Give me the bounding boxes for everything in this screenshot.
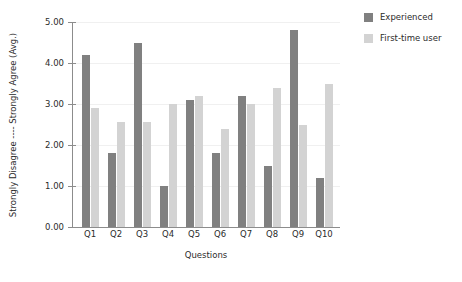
y-tick-label: 5.00: [45, 17, 64, 27]
chart-legend: ExperiencedFirst-time user: [364, 12, 441, 54]
bar-group: [290, 22, 307, 227]
y-tick-mark: [68, 145, 76, 146]
y-tick-mark: [68, 104, 76, 105]
bar-group: [186, 22, 203, 227]
bar-q2-first-time-user: [117, 122, 125, 227]
y-tick-mark: [68, 186, 76, 187]
bar-q8-experienced: [264, 166, 272, 228]
bar-group: [238, 22, 255, 227]
bar-q10-experienced: [316, 178, 324, 227]
legend-item-first-time-user: First-time user: [364, 33, 441, 43]
y-tick-mark: [68, 63, 76, 64]
y-tick-label: 4.00: [45, 58, 64, 68]
bar-group: [134, 22, 151, 227]
y-tick-mark: [68, 227, 76, 228]
x-axis-line: [72, 227, 340, 228]
x-tick-label-q4: Q4: [154, 229, 182, 239]
legend-item-experienced: Experienced: [364, 12, 441, 22]
bar-q9-first-time-user: [299, 125, 307, 228]
x-tick-label-q7: Q7: [232, 229, 260, 239]
bar-q10-first-time-user: [325, 84, 333, 228]
plot-area: 0.001.002.003.004.005.00 Q1Q2Q3Q4Q5Q6Q7Q…: [72, 22, 340, 228]
legend-swatch-icon: [364, 34, 373, 43]
bar-q1-first-time-user: [91, 108, 99, 227]
legend-swatch-icon: [364, 13, 373, 22]
bar-q4-first-time-user: [169, 104, 177, 227]
legend-label: First-time user: [380, 33, 441, 43]
bar-q2-experienced: [108, 153, 116, 227]
bar-group: [264, 22, 281, 227]
bar-group: [212, 22, 229, 227]
bar-q3-first-time-user: [143, 122, 151, 227]
bar-group: [82, 22, 99, 227]
x-axis-title: Questions: [72, 250, 340, 260]
y-tick-label: 0.00: [45, 222, 64, 232]
bar-chart-figure: Strongly Disagree ---- Strongly Agree (A…: [0, 0, 462, 282]
bar-q1-experienced: [82, 55, 90, 227]
y-axis-line: [72, 22, 73, 228]
bar-q4-experienced: [160, 186, 168, 227]
y-tick-label: 3.00: [45, 99, 64, 109]
x-tick-label-q10: Q10: [310, 229, 338, 239]
bar-q7-first-time-user: [247, 104, 255, 227]
x-tick-label-q2: Q2: [102, 229, 130, 239]
bar-q7-experienced: [238, 96, 246, 227]
bar-q6-first-time-user: [221, 129, 229, 227]
x-tick-label-q3: Q3: [128, 229, 156, 239]
bar-q3-experienced: [134, 43, 142, 228]
x-tick-label-q5: Q5: [180, 229, 208, 239]
x-tick-label-q6: Q6: [206, 229, 234, 239]
y-axis-title: Strongly Disagree ---- Strongly Agree (A…: [6, 22, 20, 228]
x-tick-label-q9: Q9: [284, 229, 312, 239]
bar-q5-experienced: [186, 100, 194, 227]
bar-q8-first-time-user: [273, 88, 281, 227]
x-tick-label-q8: Q8: [258, 229, 286, 239]
y-axis-title-text: Strongly Disagree ---- Strongly Agree (A…: [8, 33, 18, 217]
bar-group: [108, 22, 125, 227]
bar-q6-experienced: [212, 153, 220, 227]
y-tick-label: 2.00: [45, 140, 64, 150]
y-tick-label: 1.00: [45, 181, 64, 191]
x-tick-label-q1: Q1: [76, 229, 104, 239]
y-tick-mark: [68, 22, 76, 23]
legend-label: Experienced: [380, 12, 433, 22]
bar-group: [160, 22, 177, 227]
bar-q9-experienced: [290, 30, 298, 227]
bar-group: [316, 22, 333, 227]
bar-q5-first-time-user: [195, 96, 203, 227]
